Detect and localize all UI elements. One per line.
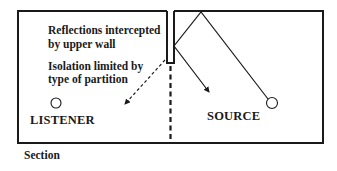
reflection-ray [174,12,268,99]
annotation-reflections-line1: Reflections intercepted [48,25,161,37]
source-icon [267,98,278,109]
upper-wall [167,11,174,63]
caption-section: Section [24,150,60,162]
annotation-reflections-line2: by upper wall [48,39,116,51]
right-room-wall [170,11,323,143]
source-label: SOURCE [207,110,260,123]
listener-label: LISTENER [30,114,95,127]
listener-icon [51,98,61,108]
annotation-isolation-line1: Isolation limited by [48,61,143,73]
annotation-isolation-line2: type of partition [48,74,128,86]
